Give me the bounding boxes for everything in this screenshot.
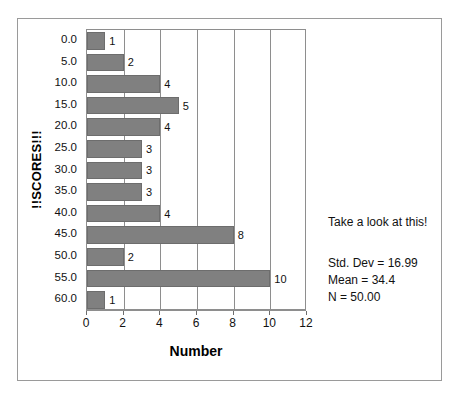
y-axis-tick-label: 10.0 <box>18 72 84 94</box>
bar-value-label: 5 <box>179 100 189 112</box>
bar <box>87 270 270 288</box>
bar <box>87 75 160 93</box>
x-axis-tick-mark <box>269 311 270 315</box>
x-axis-tick-mark <box>159 311 160 315</box>
bar-row: 3 <box>87 181 305 203</box>
bar-value-label: 10 <box>270 273 286 285</box>
bar-row: 5 <box>87 95 305 117</box>
y-axis-tick-label: 60.0 <box>18 288 84 310</box>
bar-value-label: 2 <box>124 251 134 263</box>
bar-row: 4 <box>87 203 305 225</box>
annotation-stat-line: N = 50.00 <box>328 289 438 306</box>
y-axis-tick-labels: 0.05.010.015.020.025.030.035.040.045.050… <box>18 29 84 310</box>
x-axis-tick-label: 6 <box>193 316 200 330</box>
bar-value-label: 3 <box>142 164 152 176</box>
plot-area: 12454333482101 <box>86 29 306 310</box>
bar <box>87 32 105 50</box>
bar <box>87 248 124 266</box>
bar-value-label: 3 <box>142 143 152 155</box>
bar-row: 2 <box>87 246 305 268</box>
x-axis-tick-label: 4 <box>156 316 163 330</box>
bar-row: 2 <box>87 52 305 74</box>
bar-value-label: 8 <box>234 229 244 241</box>
y-axis-tick-label: 55.0 <box>18 267 84 289</box>
x-axis-tick-mark <box>86 311 87 315</box>
bar-value-label: 2 <box>124 56 134 68</box>
annotation-stats-list: Std. Dev = 16.99Mean = 34.4N = 50.00 <box>328 255 438 306</box>
bar-value-label: 3 <box>142 186 152 198</box>
bar-row: 4 <box>87 116 305 138</box>
x-axis-tick-mark <box>196 311 197 315</box>
bar <box>87 140 142 158</box>
annotation-stat-line: Mean = 34.4 <box>328 272 438 289</box>
bar-value-label: 4 <box>160 121 170 133</box>
bar <box>87 118 160 136</box>
y-axis-tick-label: 45.0 <box>18 223 84 245</box>
annotation-stat-line: Std. Dev = 16.99 <box>328 255 438 272</box>
bar-value-label: 4 <box>160 78 170 90</box>
bar-row: 8 <box>87 224 305 246</box>
bar <box>87 97 179 115</box>
y-axis-tick-label: 30.0 <box>18 159 84 181</box>
y-axis-tick-label: 25.0 <box>18 137 84 159</box>
x-axis-tick-mark <box>233 311 234 315</box>
y-axis-tick-label: 40.0 <box>18 202 84 224</box>
bar <box>87 205 160 223</box>
bar-value-label: 1 <box>105 294 115 306</box>
bar-row: 3 <box>87 138 305 160</box>
y-axis-tick-label: 15.0 <box>18 94 84 116</box>
bar <box>87 291 105 309</box>
bar-series: 12454333482101 <box>87 30 305 309</box>
x-axis-title: Number <box>86 343 306 359</box>
y-axis-tick-label: 5.0 <box>18 51 84 73</box>
y-axis-tick-label: 0.0 <box>18 29 84 51</box>
x-axis-tick-label: 12 <box>299 316 312 330</box>
statistics-annotation: Take a look at this! Std. Dev = 16.99Mea… <box>328 215 438 306</box>
x-axis-tick-mark <box>123 311 124 315</box>
bar-value-label: 1 <box>105 35 115 47</box>
bar <box>87 183 142 201</box>
x-axis-tick-label: 10 <box>263 316 276 330</box>
bar <box>87 226 234 244</box>
bar <box>87 54 124 72</box>
bar-value-label: 4 <box>160 208 170 220</box>
x-axis-tick-label: 2 <box>119 316 126 330</box>
bar-row: 1 <box>87 30 305 52</box>
annotation-note: Take a look at this! <box>328 215 438 229</box>
bar <box>87 162 142 180</box>
x-axis-tick-label: 0 <box>83 316 90 330</box>
bar-row: 10 <box>87 268 305 290</box>
bar-row: 4 <box>87 73 305 95</box>
chart-frame: !!SCORES!!! 0.05.010.015.020.025.030.035… <box>17 18 442 381</box>
chart-screenshot: !!SCORES!!! 0.05.010.015.020.025.030.035… <box>0 0 459 394</box>
x-axis-tick-label: 8 <box>229 316 236 330</box>
y-axis-tick-label: 35.0 <box>18 180 84 202</box>
y-axis-tick-label: 50.0 <box>18 245 84 267</box>
x-axis-tick-labels: 024681012 <box>86 311 306 331</box>
bar-row: 1 <box>87 289 305 311</box>
y-axis-tick-label: 20.0 <box>18 115 84 137</box>
bar-row: 3 <box>87 160 305 182</box>
x-axis-tick-mark <box>306 311 307 315</box>
